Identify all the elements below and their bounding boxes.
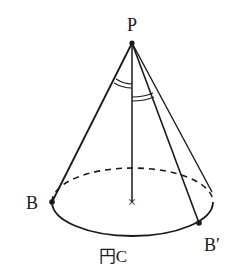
- cone-right-edge: [132, 43, 212, 192]
- center-mark: ×: [128, 194, 136, 210]
- apex-point: [129, 40, 134, 45]
- point-b-prime: [196, 220, 202, 226]
- label-b: B: [26, 193, 38, 213]
- point-b: [49, 199, 55, 205]
- generatrix-pb-prime: [132, 43, 199, 223]
- angle-mark-right: [132, 93, 154, 101]
- label-apex-p: P: [127, 15, 137, 35]
- label-b-prime: B′: [204, 235, 220, 255]
- angle-mark-left: [114, 79, 132, 88]
- label-circle-c: 円C: [99, 247, 127, 266]
- generatrix-pb: [52, 43, 132, 202]
- cone-diagram: × P B B′ 円C: [0, 0, 241, 280]
